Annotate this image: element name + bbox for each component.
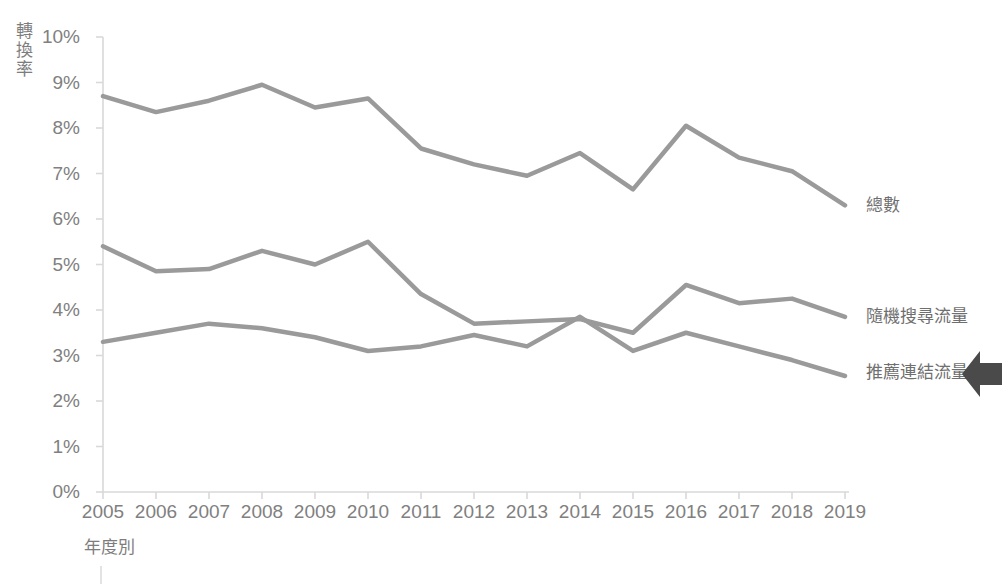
page-artifact-mark bbox=[96, 566, 106, 584]
series-label-referral: 推薦連結流量 bbox=[866, 358, 968, 383]
left-pointing-arrow bbox=[962, 347, 1002, 401]
series-label-total: 總數 bbox=[866, 191, 900, 216]
x-axis-ticks bbox=[103, 492, 845, 499]
series-label-organic-search: 隨機搜尋流量 bbox=[866, 302, 968, 327]
y-axis-ticks bbox=[96, 37, 103, 492]
series-line-total bbox=[103, 85, 845, 206]
series-line-organic-search bbox=[103, 242, 845, 333]
